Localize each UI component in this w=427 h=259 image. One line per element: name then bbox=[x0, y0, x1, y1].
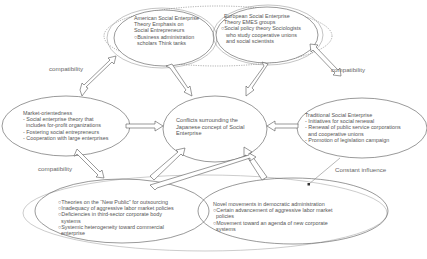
american-node-text: American Social Enterprise Theory Emphas… bbox=[134, 15, 199, 46]
arrow-american-center bbox=[166, 64, 192, 96]
center-node-text: Conflicts surrounding the Japanese conce… bbox=[176, 117, 244, 137]
traditional-node-text: Traditional Social Enterprise - Initiati… bbox=[305, 112, 401, 143]
arrow-market-center bbox=[126, 121, 163, 131]
arrow-market-american bbox=[80, 56, 116, 96]
novel-node-text: Novel movements in democratic administra… bbox=[213, 201, 333, 232]
arrow-novel-center bbox=[244, 147, 267, 180]
constant-influence-label: Constant influence bbox=[335, 166, 386, 173]
market-node-text: Market-orientedness - Social enterprise … bbox=[23, 110, 108, 141]
compatibility-label-bottom-left: compatibility bbox=[38, 165, 72, 172]
european-node-text: European Social Enterprise Theory EMES g… bbox=[221, 13, 301, 44]
compatibility-label-top-left: compatibility bbox=[49, 65, 83, 72]
arrow-european-center bbox=[246, 62, 268, 96]
compatibility-label-top-right: compatibility bbox=[331, 66, 365, 73]
new-public-node-text: ○Theories on the “New Public” for outsou… bbox=[58, 199, 174, 236]
arrow-traditional-center bbox=[267, 121, 298, 131]
